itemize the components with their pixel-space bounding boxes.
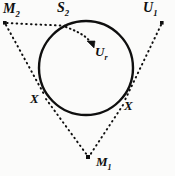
main-circle xyxy=(39,21,133,115)
label-ur: Ur xyxy=(95,45,108,62)
label-x-left: X xyxy=(30,92,39,105)
diagram-canvas xyxy=(0,0,175,176)
dotted-line-u1-xright xyxy=(124,25,161,102)
label-ur-base: U xyxy=(95,44,104,59)
label-x-left-base: X xyxy=(30,91,39,106)
label-ur-subscript: r xyxy=(104,53,107,62)
label-m2: M2 xyxy=(3,2,20,18)
label-m2-subscript: 2 xyxy=(15,9,19,19)
label-u1-subscript: 1 xyxy=(153,8,157,18)
label-m2-base: M xyxy=(3,1,15,16)
dotted-line-xleft-m1 xyxy=(46,99,87,155)
tangent-circle-diagram: M2 S2 U1 Ur X X M1 xyxy=(0,0,175,176)
point-dot-m1 xyxy=(86,155,90,159)
dotted-line-m2-s2 xyxy=(7,23,69,26)
dotted-line-xright-m1 xyxy=(90,105,123,155)
label-x-right-base: X xyxy=(124,98,133,113)
label-x-right: X xyxy=(124,99,133,112)
label-u1: U1 xyxy=(143,1,157,17)
label-s2-subscript: 2 xyxy=(65,8,69,18)
label-m1-base: M xyxy=(96,154,108,169)
label-m1: M1 xyxy=(96,155,112,172)
label-u1-base: U xyxy=(143,0,153,15)
label-s2: S2 xyxy=(57,1,69,17)
point-dot-m2 xyxy=(3,21,7,25)
label-m1-subscript: 1 xyxy=(108,163,112,172)
label-s2-base: S xyxy=(57,0,65,15)
curved-arrow-head xyxy=(87,41,95,48)
point-dot-u1 xyxy=(160,21,164,25)
